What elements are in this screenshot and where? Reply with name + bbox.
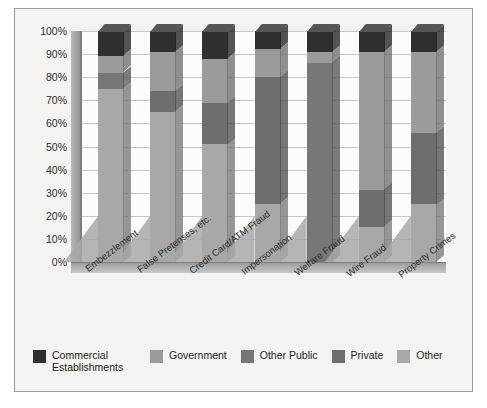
bar-segment[interactable] bbox=[98, 56, 124, 72]
y-axis-tick-50: 50% bbox=[21, 142, 67, 152]
bar-stack bbox=[150, 31, 176, 262]
bar-segment[interactable] bbox=[255, 77, 281, 204]
legend-swatch bbox=[397, 350, 410, 363]
y-axis-tick-70: 70% bbox=[21, 95, 67, 105]
bar-segment[interactable] bbox=[359, 190, 385, 227]
bar-segment[interactable] bbox=[150, 91, 176, 112]
y-axis-tick-80: 80% bbox=[21, 72, 67, 82]
legend-label: Private bbox=[351, 349, 384, 361]
legend-item[interactable]: Other Public bbox=[241, 349, 318, 363]
bar-column[interactable] bbox=[150, 31, 176, 262]
bar-segment[interactable] bbox=[202, 59, 228, 103]
y-axis-tick-90: 90% bbox=[21, 49, 67, 59]
legend-label: Other bbox=[416, 349, 442, 361]
bar-segment[interactable] bbox=[307, 63, 333, 262]
bar-stack bbox=[411, 31, 437, 262]
bar-segment[interactable] bbox=[255, 49, 281, 77]
legend-item[interactable]: Government bbox=[150, 349, 227, 363]
bar-segment[interactable] bbox=[411, 52, 437, 133]
legend-label: Other Public bbox=[260, 349, 318, 361]
bar-segment[interactable] bbox=[359, 52, 385, 191]
y-axis-tick-20: 20% bbox=[21, 211, 67, 221]
legend-swatch bbox=[241, 350, 254, 363]
legend-swatch bbox=[33, 350, 46, 363]
bar-column[interactable] bbox=[202, 31, 228, 262]
bar-segment[interactable] bbox=[202, 31, 228, 59]
bar-segment[interactable] bbox=[150, 31, 176, 52]
y-axis-tick-100: 100% bbox=[21, 26, 67, 36]
legend-label: Government bbox=[169, 349, 227, 361]
bar-column[interactable] bbox=[359, 31, 385, 262]
y-axis-tick-10: 10% bbox=[21, 234, 67, 244]
y-axis-tick-30: 30% bbox=[21, 188, 67, 198]
bar-stack bbox=[202, 31, 228, 262]
legend-label: Commercial Establishments bbox=[52, 349, 136, 373]
bar-segment[interactable] bbox=[202, 103, 228, 145]
bar-side-face bbox=[436, 126, 444, 204]
bar-column[interactable] bbox=[98, 31, 124, 262]
bar-segment[interactable] bbox=[359, 31, 385, 52]
bar-column[interactable] bbox=[411, 31, 437, 262]
bar-segment[interactable] bbox=[307, 52, 333, 64]
chart-frame: 100%90%80%70%60%50%40%30%20%10%0% Embezz… bbox=[14, 8, 473, 392]
bar-side-face bbox=[280, 70, 288, 204]
bar-segment[interactable] bbox=[255, 31, 281, 49]
bar-stack bbox=[255, 31, 281, 262]
y-axis-tick-60: 60% bbox=[21, 118, 67, 128]
bar-side-face bbox=[384, 45, 392, 190]
bar-segment[interactable] bbox=[411, 133, 437, 205]
plot-area bbox=[71, 31, 446, 262]
x-axis-category-labels: EmbezzlementFalse Pretenses, etc.Credit … bbox=[71, 265, 471, 335]
legend-item[interactable]: Commercial Establishments bbox=[33, 349, 136, 373]
bar-column[interactable] bbox=[307, 31, 333, 262]
y-axis-tick-labels: 100%90%80%70%60%50%40%30%20%10%0% bbox=[15, 31, 67, 262]
bar-stack bbox=[307, 31, 333, 262]
bar-segment[interactable] bbox=[98, 31, 124, 56]
legend-item[interactable]: Private bbox=[332, 349, 384, 363]
legend-swatch bbox=[150, 350, 163, 363]
bar-stack bbox=[359, 31, 385, 262]
y-axis-tick-40: 40% bbox=[21, 165, 67, 175]
bar-segment[interactable] bbox=[307, 31, 333, 52]
legend-swatch bbox=[332, 350, 345, 363]
bar-side-face bbox=[436, 45, 444, 133]
bar-column[interactable] bbox=[255, 31, 281, 262]
chart-legend: Commercial EstablishmentsGovernmentOther… bbox=[33, 349, 463, 385]
bar-side-face bbox=[332, 57, 340, 262]
y-axis-tick-0: 0% bbox=[21, 257, 67, 267]
bar-side-face bbox=[227, 52, 235, 103]
bar-segment[interactable] bbox=[98, 73, 124, 89]
legend-item[interactable]: Other bbox=[397, 349, 442, 363]
bar-segment[interactable] bbox=[411, 31, 437, 52]
bar-segment[interactable] bbox=[150, 52, 176, 91]
y-axis-line bbox=[80, 31, 82, 262]
bar-stack bbox=[98, 31, 124, 262]
